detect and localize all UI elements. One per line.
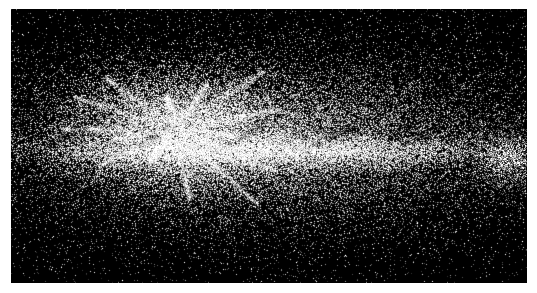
galaxy-simulation-panel [11,9,527,283]
galaxy-render-canvas [11,9,527,283]
page-root [0,0,537,293]
